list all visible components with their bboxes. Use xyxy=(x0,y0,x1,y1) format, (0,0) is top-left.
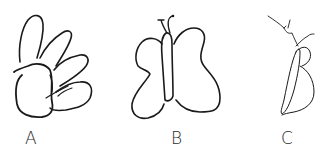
panel-a-label: A xyxy=(25,128,37,148)
drawings-figure: A B C xyxy=(0,0,336,152)
butterfly-drawing xyxy=(112,0,224,152)
side-butterfly-drawing xyxy=(224,0,336,152)
panel-b: B xyxy=(112,0,224,152)
panel-c-label: C xyxy=(281,128,293,148)
panel-a: A xyxy=(0,0,112,152)
hand-drawing xyxy=(0,0,112,152)
panel-c: C xyxy=(224,0,336,152)
panel-b-label: B xyxy=(171,128,182,148)
